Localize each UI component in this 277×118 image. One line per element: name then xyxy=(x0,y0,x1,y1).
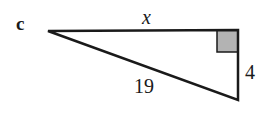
side-right-label: 4 xyxy=(245,61,255,83)
right-angle-marker xyxy=(217,30,238,52)
right-triangle-diagram: c x 19 4 xyxy=(0,0,277,118)
side-top-label: x xyxy=(141,6,151,28)
hypotenuse-label: 19 xyxy=(134,75,154,97)
problem-label: c xyxy=(16,13,24,34)
